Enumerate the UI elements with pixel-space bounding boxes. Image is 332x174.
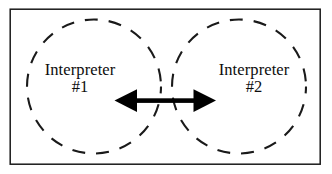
arrow-shaft (132, 98, 200, 103)
interpreter-2-label: Interpreter #2 (182, 62, 326, 96)
diagram-canvas: Interpreter #1 Interpreter #2 (0, 0, 332, 174)
interpreter-2-number: #2 (182, 79, 326, 96)
interpreter-1-label: Interpreter #1 (8, 62, 152, 96)
interpreter-1-number: #1 (8, 79, 152, 96)
